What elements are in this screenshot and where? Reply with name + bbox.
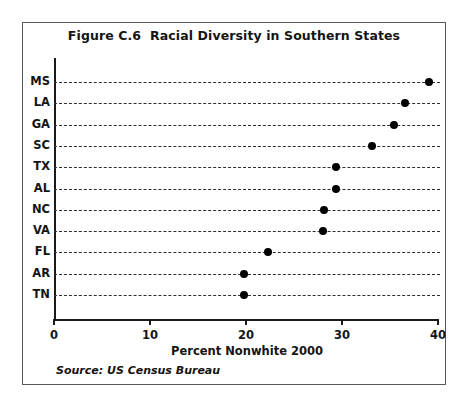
x-axis-tick: [437, 319, 439, 325]
y-axis-tick-label: AR: [6, 268, 50, 280]
grid-line: [54, 231, 440, 232]
grid-line: [54, 125, 440, 126]
data-point: [320, 206, 328, 214]
grid-line: [54, 210, 440, 211]
x-axis-tick-label: 10: [130, 328, 170, 342]
data-point: [332, 163, 340, 171]
x-axis-tick: [149, 319, 151, 325]
grid-line: [54, 167, 440, 168]
grid-line: [54, 189, 440, 190]
x-axis-tick-label: 30: [322, 328, 362, 342]
y-axis-tick-label: FL: [6, 246, 50, 258]
y-axis-tick-label: NC: [6, 204, 50, 216]
x-axis-tick: [341, 319, 343, 325]
x-axis-title: Percent Nonwhite 2000: [54, 344, 440, 358]
y-axis-tick-label: GA: [6, 119, 50, 131]
data-point: [390, 121, 398, 129]
data-point: [240, 291, 248, 299]
y-axis-tick-label: VA: [6, 225, 50, 237]
x-axis-tick-label: 0: [34, 328, 74, 342]
x-axis-tick-label: 20: [226, 328, 266, 342]
y-axis-tick-label: TN: [6, 289, 50, 301]
data-point: [240, 270, 248, 278]
grid-line: [54, 252, 440, 253]
x-axis-tick: [53, 319, 55, 325]
data-point: [332, 185, 340, 193]
data-point: [401, 99, 409, 107]
data-point: [264, 248, 272, 256]
grid-line: [54, 82, 440, 83]
data-point: [425, 78, 433, 86]
y-axis-tick-label: AL: [6, 183, 50, 195]
y-axis-tick-label: MS: [6, 76, 50, 88]
grid-line: [54, 103, 440, 104]
y-axis-tick-label: SC: [6, 140, 50, 152]
source-note: Source: US Census Bureau: [56, 364, 220, 377]
y-axis-tick-label: TX: [6, 161, 50, 173]
figure-container: Figure C.6 Racial Diversity in Southern …: [0, 0, 468, 412]
data-point: [368, 142, 376, 150]
x-axis-tick: [245, 319, 247, 325]
data-point: [319, 227, 327, 235]
y-axis-tick-label: LA: [6, 97, 50, 109]
x-axis-tick-label: 40: [418, 328, 458, 342]
grid-line: [54, 146, 440, 147]
